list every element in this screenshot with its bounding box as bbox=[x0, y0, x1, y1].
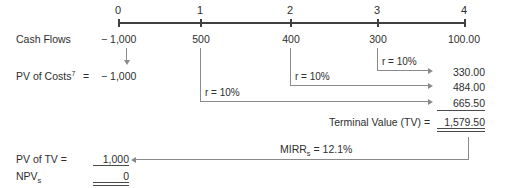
mirr-timeline-diagram: 0 1 2 3 4 Cash Flows − 1,000 500 400 300… bbox=[0, 0, 505, 188]
cash-flow-value-0: − 1,000 bbox=[101, 33, 136, 45]
cash-flow-value-4: 100.00 bbox=[443, 33, 485, 45]
terminal-value-amount: 1,579.50 bbox=[437, 116, 485, 128]
pv-costs-footnote-marker: 7 bbox=[71, 70, 75, 77]
npv-rule-2 bbox=[93, 185, 129, 186]
timeline-tick-4 bbox=[464, 19, 466, 27]
compound-run-year2 bbox=[290, 85, 429, 86]
period-label-2: 2 bbox=[280, 4, 300, 16]
rate-label-year1: r = 10% bbox=[205, 87, 240, 99]
mirr-subscript: s bbox=[307, 149, 311, 158]
terminal-value-rule-2 bbox=[437, 131, 485, 132]
pv-costs-arrow-head bbox=[124, 60, 130, 65]
npv-value: 0 bbox=[93, 170, 129, 182]
period-label-3: 3 bbox=[367, 4, 387, 16]
mirr-arrowhead bbox=[131, 157, 136, 163]
timeline-tick-0 bbox=[118, 19, 120, 27]
npv-rule-1 bbox=[93, 182, 129, 183]
mirr-run bbox=[136, 159, 469, 160]
pv-tv-value: 1,000 bbox=[93, 153, 129, 165]
compound-arrowhead-year1 bbox=[428, 99, 433, 105]
cash-flows-row-label: Cash Flows bbox=[16, 33, 71, 45]
compound-arrowhead-year3 bbox=[428, 68, 433, 74]
timeline-tick-3 bbox=[377, 19, 379, 27]
pv-tv-label: PV of TV = bbox=[16, 153, 67, 165]
compound-riser-year2 bbox=[290, 48, 291, 86]
rate-label-year2: r = 10% bbox=[295, 71, 330, 83]
compounded-sum-rule bbox=[437, 110, 485, 111]
compound-riser-year3 bbox=[377, 48, 378, 71]
compounded-value-665: 665.50 bbox=[437, 97, 485, 109]
mirr-riser bbox=[468, 137, 469, 160]
compound-arrowhead-year2 bbox=[428, 83, 433, 89]
period-label-1: 1 bbox=[190, 4, 210, 16]
pv-costs-equals: = bbox=[83, 70, 89, 82]
mirr-label: MIRRs = 12.1% bbox=[280, 143, 352, 155]
period-label-4: 4 bbox=[454, 4, 474, 16]
terminal-value-label: Terminal Value (TV) = bbox=[329, 116, 430, 128]
timeline-tick-2 bbox=[290, 19, 292, 27]
rate-label-year3: r = 10% bbox=[382, 56, 417, 68]
cash-flow-value-2: 400 bbox=[278, 33, 304, 45]
pv-costs-value: − 1,000 bbox=[101, 70, 136, 82]
compound-run-year1 bbox=[200, 101, 429, 102]
compounded-value-484: 484.00 bbox=[437, 81, 485, 93]
timeline-tick-1 bbox=[200, 19, 202, 27]
npv-label-text: NPV bbox=[16, 170, 38, 182]
cash-flow-value-3: 300 bbox=[365, 33, 391, 45]
compound-riser-year1 bbox=[200, 48, 201, 102]
compounded-value-330: 330.00 bbox=[437, 66, 485, 78]
pv-tv-rule bbox=[93, 165, 129, 166]
period-label-0: 0 bbox=[108, 4, 128, 16]
npv-label: NPVs bbox=[16, 170, 41, 182]
pv-costs-label-text: PV of Costs bbox=[16, 70, 71, 82]
compound-run-year3 bbox=[377, 70, 429, 71]
npv-subscript: s bbox=[38, 176, 42, 185]
mirr-label-text: MIRR bbox=[280, 143, 307, 155]
mirr-value-text: = 12.1% bbox=[314, 143, 353, 155]
cash-flow-value-1: 500 bbox=[188, 33, 214, 45]
pv-costs-label: PV of Costs7 bbox=[16, 70, 75, 82]
terminal-value-rule-1 bbox=[437, 128, 485, 129]
